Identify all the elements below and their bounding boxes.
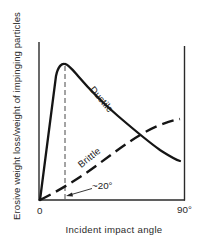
peak-angle-annotation: ~20°	[92, 180, 113, 191]
chart-plot	[0, 0, 205, 246]
x-tick-90: 90°	[177, 204, 192, 215]
y-axis-label: Erosive weight loss/weight of impinging …	[11, 12, 22, 220]
x-axis-label: Incident impact angle	[66, 224, 163, 235]
arrowhead-icon	[66, 193, 73, 197]
erosion-angle-chart: Erosive weight loss/weight of impinging …	[0, 0, 205, 246]
x-tick-0: 0	[37, 205, 42, 216]
